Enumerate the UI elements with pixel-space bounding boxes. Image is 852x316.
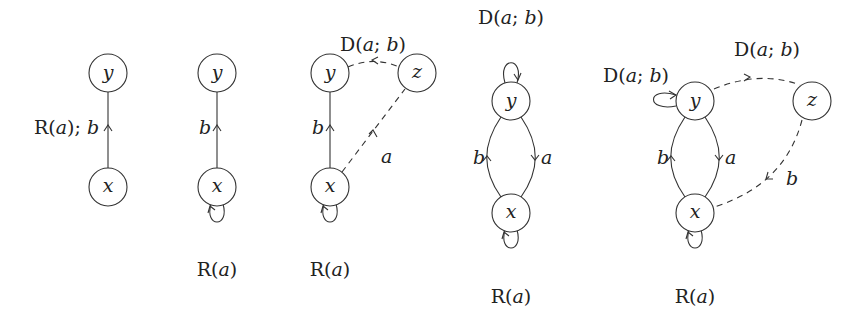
arrow-loop-icon [321,206,328,213]
arrow-loop-icon [514,73,521,80]
graph-5: D(a; b) D(a; b) b a b R(a) y z x [603,38,831,307]
self-loop-y [654,93,677,107]
node-label-y: y [102,61,114,83]
self-loop-x [323,204,337,222]
edge-label-a: a [541,146,552,168]
edge-x-to-y-curved [487,117,501,197]
edge-label-b: b [312,116,324,138]
self-loop-x [504,230,518,248]
node-label-z: z [806,88,818,110]
edge-x-to-y-curved [671,117,685,197]
edge-label-r-a-b: R(a); b [34,116,99,138]
arrow-loop-icon [208,206,215,213]
node-label-x: x [103,174,114,196]
node-label-y: y [324,61,336,83]
self-loop-y [504,63,519,83]
arrow-left-icon [372,57,378,64]
graph-3: b D(a; b) a R(a) y z x [310,33,436,280]
arrow-loop-icon [502,232,509,239]
loop-label-r-a: R(a) [675,285,715,307]
edge-z-to-y-dashed [348,62,399,68]
self-loop-x [688,230,702,248]
loop-label-d-a-b: D(a; b) [603,64,669,86]
node-label-x: x [690,200,701,222]
edge-label-a: a [725,146,736,168]
edge-label-d-a-b: D(a; b) [734,38,800,60]
graph-4: D(a; b) b a R(a) y x [473,6,552,307]
graph-1: R(a); b y x [34,54,127,206]
loop-label-r-a: R(a) [491,285,531,307]
self-loop-x [210,204,224,222]
loop-label-d-a-b: D(a; b) [478,6,544,28]
edge-label-b: b [199,116,211,138]
edge-y-to-z-dashed [714,78,800,89]
node-label-y: y [211,61,223,83]
diagram-canvas: R(a); b y x b R(a) y x b D(a; b) a [0,0,852,316]
node-label-y: y [689,89,701,111]
edge-label-b-dashed: b [786,167,798,189]
arrow-up-right-icon [369,130,377,137]
edge-label-b: b [473,146,485,168]
edge-label-b: b [657,146,669,168]
arrow-loop-icon [669,91,676,99]
loop-label-r-a: R(a) [310,258,350,280]
loop-label-r-a: R(a) [197,258,237,280]
node-label-x: x [325,174,336,196]
node-label-z: z [411,60,423,82]
node-label-y: y [505,89,517,111]
edge-label-a: a [381,145,392,167]
edge-label-d-a-b: D(a; b) [340,33,406,55]
node-label-x: x [506,200,517,222]
node-label-x: x [212,174,223,196]
graph-2: b R(a) y x [197,54,237,280]
arrow-loop-icon [686,232,693,239]
